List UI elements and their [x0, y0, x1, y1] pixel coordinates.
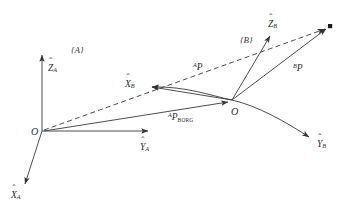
frame-b-label: {B}: [240, 36, 253, 45]
vector-ap-label: AP: [193, 62, 203, 73]
z-axis-a-label: ˆZA: [48, 64, 57, 74]
x-axis-b-base: ˆX: [125, 79, 131, 89]
z-axis-b-subscript: B: [273, 22, 277, 29]
x-axis-a-base: ˆX: [11, 190, 17, 200]
vector-diagram: {A} {B} O O ˆZA ˆYA ˆXA ˆZB ˆXB ˆYB AP B…: [0, 0, 350, 214]
x-axis-b-subscript: B: [131, 82, 135, 89]
hat-accent-icon: ˆ: [141, 136, 144, 145]
z-axis-b-line: [232, 36, 270, 100]
origin-a-label: O: [31, 127, 38, 137]
origin-b-label: O: [231, 107, 238, 117]
y-axis-a-base: ˆY: [140, 142, 145, 152]
y-axis-b-base: ˆY: [317, 139, 322, 149]
z-axis-a-base: ˆZ: [48, 63, 53, 73]
z-axis-b-base: ˆZ: [268, 19, 273, 29]
y-axis-b-curve: [232, 100, 309, 137]
z-axis-a-subscript: A: [53, 66, 57, 73]
hat-accent-icon: ˆ: [127, 73, 130, 82]
vector-bp-label: BP: [293, 63, 303, 74]
target-point-marker: [328, 24, 332, 28]
frame-a-label: {A}: [71, 46, 84, 55]
x-axis-b-label: ˆXB: [125, 80, 135, 90]
hat-accent-icon: ˆ: [269, 13, 272, 22]
y-axis-a-label: ˆYA: [140, 143, 149, 153]
vector-ap-borg-subscript: BORG: [178, 117, 194, 123]
x-axis-a-subscript: A: [17, 193, 21, 200]
x-axis-b-line: [152, 87, 232, 100]
vector-ap-borg-line: [44, 102, 228, 131]
vector-ap-base: P: [197, 62, 203, 72]
vector-bp-base: P: [297, 63, 303, 73]
x-axis-a-label: ˆXA: [11, 191, 21, 201]
y-axis-a-subscript: A: [145, 145, 149, 152]
z-axis-b-label: ˆZB: [268, 20, 277, 30]
y-axis-b-label: ˆYB: [317, 140, 326, 150]
diagram-canvas: [0, 0, 350, 214]
hat-accent-icon: ˆ: [49, 57, 52, 66]
x-axis-a-line: [25, 131, 42, 184]
y-axis-b-subscript: B: [322, 142, 326, 149]
hat-accent-icon: ˆ: [318, 133, 321, 142]
hat-accent-icon: ˆ: [13, 184, 16, 193]
vector-ap-borg-label: APBORG: [168, 112, 193, 123]
